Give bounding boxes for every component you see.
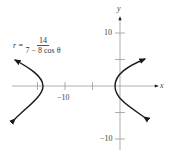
hyperbola-right-branch	[115, 59, 145, 117]
y-tick-label-10: 10	[104, 28, 112, 37]
y-tick-label-neg10: −10	[100, 134, 113, 143]
hyperbola-left-branch	[15, 60, 43, 119]
equation-fraction: 14 7 − 8 cos θ	[26, 36, 61, 55]
equation-lhs: r =	[13, 41, 24, 50]
polar-hyperbola-plot	[0, 0, 169, 154]
equation-label: r = 14 7 − 8 cos θ	[13, 36, 61, 55]
x-axis-label: x	[160, 81, 164, 90]
equation-denominator: 7 − 8 cos θ	[26, 46, 61, 55]
y-axis-label: y	[117, 4, 121, 13]
equation-numerator: 14	[37, 36, 49, 46]
x-tick-label-neg10: −10	[57, 93, 70, 102]
